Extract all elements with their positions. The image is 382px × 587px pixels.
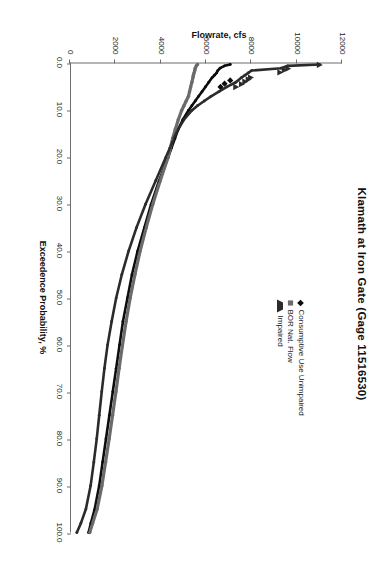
y-tick-label: 2000 (111, 36, 120, 54)
y-tick (69, 59, 70, 63)
legend-item: Consumptive Use Unimpaired (296, 299, 307, 415)
square-marker (288, 300, 293, 305)
outlier-marker (317, 61, 323, 67)
x-tick (67, 345, 71, 346)
x-tick (67, 486, 71, 487)
legend-item: Impaired (275, 299, 286, 415)
x-tick-label: 70.0 (55, 383, 64, 399)
x-tick-label: 0.0 (55, 56, 64, 67)
rotated-chart-canvas: Klamath at Iron Gate (Gage 11516530) Con… (0, 0, 382, 587)
legend-item-label: BOR Nat. Flow (285, 309, 296, 362)
series-line-diamond (89, 64, 231, 532)
x-tick (67, 251, 71, 252)
x-tick (67, 298, 71, 299)
x-tick (67, 110, 71, 111)
series-marker (229, 63, 232, 66)
plot-area: Consumptive Use UnimpairedBOR Nat. FlowI… (70, 62, 342, 532)
x-tick (67, 204, 71, 205)
diamond-marker (297, 299, 304, 306)
x-tick-label: 100.0 (55, 522, 64, 542)
x-tick (67, 439, 71, 440)
y-tick (114, 59, 115, 63)
y-axis-title: Flowrate, cfs (159, 29, 279, 39)
series-marker (250, 69, 253, 72)
chart-curves (71, 63, 342, 532)
x-tick-label: 10.0 (55, 101, 64, 117)
x-tick-label: 30.0 (55, 195, 64, 211)
series-line-triangle (77, 64, 320, 532)
x-tick (67, 533, 71, 534)
x-tick-label: 80.0 (55, 430, 64, 446)
x-tick (67, 392, 71, 393)
legend-item-label: Impaired (275, 315, 286, 346)
legend-item: BOR Nat. Flow (285, 299, 296, 415)
x-tick-label: 50.0 (55, 289, 64, 305)
chart-legend: Consumptive Use UnimpairedBOR Nat. FlowI… (275, 299, 307, 415)
triangle-marker (277, 299, 283, 312)
x-axis-title: Exceedence Probability, % (38, 62, 48, 532)
figure-frame: Klamath at Iron Gate (Gage 11516530) Con… (0, 0, 382, 587)
outlier-marker (227, 77, 233, 83)
y-tick (341, 59, 342, 63)
legend-item-label: Consumptive Use Unimpaired (296, 309, 307, 415)
x-tick (67, 157, 71, 158)
y-tick-label: 12000 (338, 32, 347, 54)
outlier-marker (221, 80, 227, 86)
x-tick-label: 40.0 (55, 242, 64, 258)
x-tick-label: 60.0 (55, 336, 64, 352)
y-tick-label: 0 (66, 50, 75, 54)
chart-title: Klamath at Iron Gate (Gage 11516530) (356, 0, 368, 587)
x-tick-label: 20.0 (55, 148, 64, 164)
series-marker (286, 64, 289, 67)
y-tick-label: 10000 (292, 32, 301, 54)
y-tick (160, 59, 161, 63)
y-tick (250, 59, 251, 63)
y-tick (205, 59, 206, 63)
x-tick-label: 90.0 (55, 477, 64, 493)
y-tick (296, 59, 297, 63)
